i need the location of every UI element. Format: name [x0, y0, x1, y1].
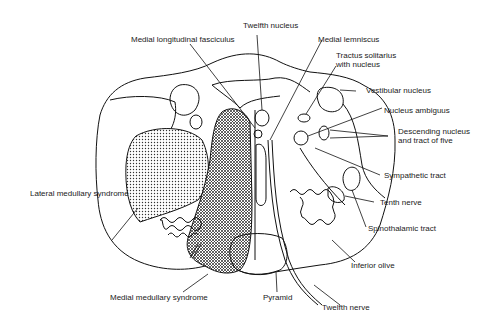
tractus-solitarius-shape: [298, 114, 310, 122]
label-descending-nucleus: Descending nucleus: [398, 127, 470, 136]
label-tenth-nerve: Tenth nerve: [380, 198, 422, 207]
label-descending-nucleus-2: and tract of five: [398, 136, 453, 145]
left-small-nucleus: [190, 115, 202, 129]
lateral-medullary-syndrome-area: [126, 129, 209, 222]
right-spinothalamic-shape: [343, 167, 360, 190]
medial-lemniscus-shape: [256, 144, 266, 205]
label-lateral-medullary-syndrome: Lateral medullary syndrome: [30, 189, 129, 198]
right-lateral-contour: [343, 104, 385, 198]
twelfth-nucleus-shape: [255, 110, 269, 126]
label-tractus-solitarius: Tractus solitarius: [336, 51, 396, 60]
label-sympathetic-tract: Sympathetic tract: [384, 171, 447, 180]
label-nucleus-ambiguus: Nucleus ambiguus: [384, 106, 450, 115]
label-pyramid: Pyramid: [263, 293, 292, 302]
label-twelfth-nucleus: Twelfth nucleus: [243, 21, 298, 30]
medulla-diagram: Twelfth nucleus Medial longitudinal fasc…: [0, 0, 482, 320]
right-vestibular-nucleus: [317, 87, 343, 111]
nucleus-ambiguus-shape: [294, 131, 308, 145]
label-medial-longitudinal-fasciculus: Medial longitudinal fasciculus: [131, 35, 235, 44]
descending-nucleus-shape: [319, 126, 329, 140]
right-tract: [300, 148, 345, 205]
label-spinothalamic-tract: Spinothalamic tract: [368, 224, 437, 233]
label-tractus-solitarius-2: with nucleus: [335, 60, 380, 69]
label-medial-medullary-syndrome: Medial medullary syndrome: [110, 293, 208, 302]
label-twelfth-nerve: Twelfth nerve: [322, 303, 370, 312]
ventricle-floor-lower: [212, 85, 280, 108]
label-medial-lemniscus: Medial lemniscus: [318, 35, 379, 44]
twelfth-nerve-path-2: [272, 140, 322, 305]
label-vestibular-nucleus: Vestibular nucleus: [366, 86, 431, 95]
left-dorsal-nucleus: [170, 85, 199, 116]
label-inferior-olive: Inferior olive: [351, 261, 395, 270]
